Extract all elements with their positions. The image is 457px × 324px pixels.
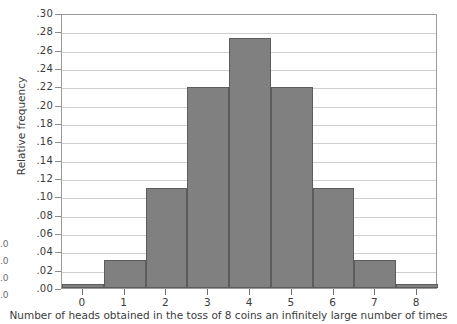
y-axis-tick-mark <box>55 51 61 52</box>
y-axis-tick-mark <box>55 69 61 70</box>
histogram-bar <box>271 87 313 288</box>
y-axis-tick-labels: .30.28.26.24.22.20.18.16.14.12.10.08.06.… <box>25 0 53 324</box>
x-axis-tick-mark <box>207 289 208 295</box>
histogram-bar <box>396 284 438 288</box>
y-axis-tick-mark <box>55 161 61 162</box>
y-axis-tick-label: .12 <box>29 174 53 184</box>
y-axis-tick-mark <box>55 289 61 290</box>
y-axis-tick-label: .06 <box>29 229 53 239</box>
y-axis-tick-mark <box>55 142 61 143</box>
y-axis-tick-mark <box>55 32 61 33</box>
bar-series <box>62 15 436 288</box>
y-axis-tick-mark <box>55 197 61 198</box>
x-axis-tick-mark <box>82 289 83 295</box>
y-axis-tick-label: .30 <box>29 9 53 19</box>
x-axis-tick-mark <box>124 289 125 295</box>
cropped-neighbor-figure-remnant: .0.0.0.0 <box>0 236 10 306</box>
x-axis-tick-label: 8 <box>406 296 426 308</box>
x-axis-title: Number of heads obtained in the toss of … <box>0 309 457 321</box>
y-axis-tick-label: .14 <box>29 156 53 166</box>
x-axis-tick-mark <box>374 289 375 295</box>
x-axis-tick-label: 2 <box>155 296 175 308</box>
x-axis-tick-label: 1 <box>114 296 134 308</box>
x-axis-tick-mark <box>333 289 334 295</box>
y-axis-tick-mark <box>55 216 61 217</box>
y-axis-tick-label: .26 <box>29 46 53 56</box>
histogram-bar <box>229 38 271 288</box>
y-axis-tick-mark <box>55 124 61 125</box>
histogram-bar <box>104 260 146 288</box>
y-axis-tick-label: .08 <box>29 211 53 221</box>
y-axis-tick-label: .16 <box>29 137 53 147</box>
histogram-figure: .0.0.0.0 .30.28.26.24.22.20.18.16.14.12.… <box>0 0 457 324</box>
x-axis-tick-label: 3 <box>197 296 217 308</box>
y-axis-tick-mark <box>55 87 61 88</box>
y-axis-tick-label: .28 <box>29 27 53 37</box>
histogram-bar <box>313 188 355 288</box>
y-axis-tick-mark <box>55 14 61 15</box>
remnant-text: .0 <box>0 253 10 270</box>
x-axis-tick-label: 7 <box>364 296 384 308</box>
y-axis-tick-mark <box>55 106 61 107</box>
remnant-text: .0 <box>0 270 10 287</box>
y-axis-tick-label: .20 <box>29 101 53 111</box>
y-axis-tick-mark <box>55 179 61 180</box>
x-axis-tick-label: 4 <box>239 296 259 308</box>
y-axis-tick-label: .22 <box>29 82 53 92</box>
x-axis-tick-mark <box>165 289 166 295</box>
y-axis-tick-label: .10 <box>29 192 53 202</box>
x-axis-tick-mark <box>416 289 417 295</box>
x-axis-tick-label: 5 <box>281 296 301 308</box>
y-axis-tick-label: .00 <box>29 284 53 294</box>
x-axis-tick-mark <box>291 289 292 295</box>
histogram-bar <box>354 260 396 288</box>
histogram-bar <box>146 188 188 288</box>
y-axis-tick-mark <box>55 271 61 272</box>
x-axis-tick-label: 0 <box>72 296 92 308</box>
y-axis-tick-mark <box>55 234 61 235</box>
y-axis-tick-label: .04 <box>29 247 53 257</box>
y-axis-title: Relative frequency <box>15 61 27 191</box>
histogram-bar <box>62 284 104 288</box>
x-axis-tick-mark <box>249 289 250 295</box>
remnant-text: .0 <box>0 287 10 304</box>
histogram-bar <box>187 87 229 288</box>
x-axis-tick-label: 6 <box>323 296 343 308</box>
y-axis-tick-mark <box>55 252 61 253</box>
plot-area <box>61 14 437 289</box>
y-axis-tick-label: .24 <box>29 64 53 74</box>
y-axis-tick-label: .02 <box>29 266 53 276</box>
remnant-text: .0 <box>0 236 10 253</box>
y-axis-tick-label: .18 <box>29 119 53 129</box>
